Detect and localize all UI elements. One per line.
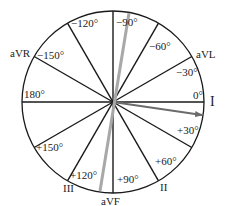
angle-label: −30°	[176, 66, 198, 78]
lead-label: I	[210, 94, 215, 109]
lead-label: aVF	[101, 195, 120, 206]
lead-label: aVL	[196, 48, 216, 60]
angle-label: −120°	[71, 17, 98, 29]
lead-label: II	[160, 181, 168, 193]
angle-label: −90°	[116, 16, 138, 28]
angle-label: +120°	[70, 169, 97, 181]
hexaxial-diagram: 0°−30°−60°−90°−120°−150°180°+150°+120°+9…	[0, 0, 229, 206]
angle-label: 180°	[24, 88, 45, 100]
lead-label: aVR	[10, 47, 31, 59]
angle-label: +90°	[117, 173, 139, 185]
angle-label: −150°	[37, 49, 64, 61]
dark-vector	[113, 102, 202, 115]
angle-label: +150°	[36, 141, 63, 153]
angle-label: +60°	[155, 155, 177, 167]
angle-label: −60°	[149, 40, 171, 52]
lead-label: III	[63, 182, 74, 194]
hexaxial-svg: 0°−30°−60°−90°−120°−150°180°+150°+120°+9…	[0, 0, 229, 206]
angle-label: +30°	[177, 124, 199, 136]
angle-label: 0°	[193, 89, 203, 101]
